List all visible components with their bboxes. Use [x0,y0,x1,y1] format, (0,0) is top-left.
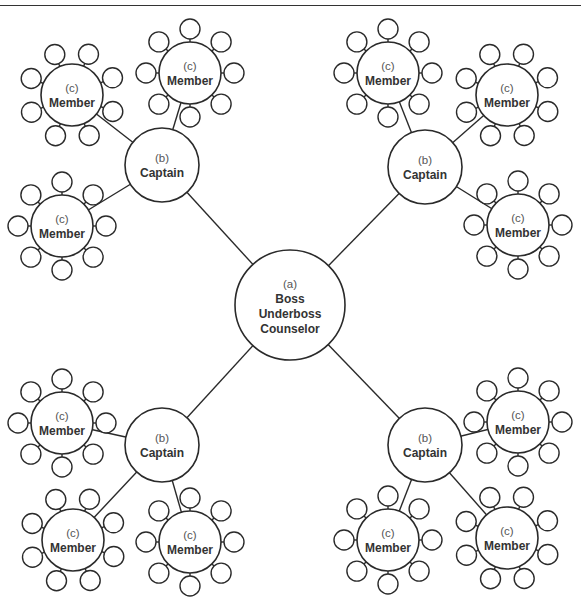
associate-circle [477,184,497,204]
member-node: (c)Member [476,507,538,569]
member-code-label: (c) [66,527,80,539]
associate-circle [538,544,558,564]
captain-role-label: Captain [140,166,184,180]
member-role-label: Member [49,96,95,110]
member-node: (c)Member [357,42,419,104]
associate-circle [149,563,169,583]
associate-circle [334,63,354,83]
associate-circle [514,569,534,589]
member-circle [476,64,538,126]
member-code-label: (c) [500,82,514,94]
associate-circle [21,382,41,402]
associate-circle [378,574,398,594]
associate-circle [104,513,124,533]
associate-circle [538,511,558,531]
associate-circle [180,19,200,39]
associate-circle [83,382,103,402]
boss-code-label: (a) [283,278,297,290]
associate-circle [347,32,367,52]
member-node: (c)Member [159,511,221,573]
associate-circle [477,381,497,401]
associate-circle [514,126,534,146]
member-node: (c)Member [487,194,549,256]
associate-circle [409,499,429,519]
captain-bottom-left: (b)Captain [125,408,199,482]
member-circle [42,509,104,571]
member-role-label: Member [167,74,213,88]
associate-circle [347,561,367,581]
associate-circle [136,532,156,552]
associate-circle [79,489,99,509]
captain-role-label: Captain [403,446,447,460]
member-code-label: (c) [183,60,197,72]
associate-circle [456,102,476,122]
captain-role-label: Captain [403,168,447,182]
captain-code-label: (b) [418,154,432,166]
associate-circle [136,63,156,83]
associate-circle [96,413,116,433]
captain-role-label: Captain [140,446,184,460]
boss-role-label: Counselor [260,322,320,336]
associate-circle [480,44,500,64]
captain-code-label: (b) [418,432,432,444]
associate-circle [47,571,67,591]
member-circle [159,511,221,573]
captain-code-label: (b) [155,432,169,444]
associate-circle [508,171,528,191]
member-node: (c)Member [357,509,419,571]
member-circle [31,195,93,257]
associate-circle [180,488,200,508]
associate-circle [52,457,72,477]
member-code-label: (c) [183,529,197,541]
member-role-label: Member [365,541,411,555]
associate-circle [538,101,558,121]
associate-circle [22,547,42,567]
member-role-label: Member [39,227,85,241]
associate-circle [409,561,429,581]
associate-circle [80,571,100,591]
associate-circle [22,514,42,534]
associate-circle [180,576,200,596]
member-node: (c)Member [159,42,221,104]
boss-role-label: Underboss [259,307,322,321]
member-circle [487,391,549,453]
associate-circle [149,501,169,521]
associate-circle [103,68,123,88]
associate-circle [539,184,559,204]
captain-circle [125,408,199,482]
associate-circle [83,185,103,205]
associate-circle [378,19,398,39]
member-code-label: (c) [65,82,79,94]
member-node: (c)Member [476,64,538,126]
associate-circle [8,413,28,433]
associate-circle [422,63,442,83]
associate-circle [52,369,72,389]
associate-circle [477,443,497,463]
associate-circle [224,63,244,83]
member-role-label: Member [495,423,541,437]
associate-circle [79,126,99,146]
associate-circle [52,172,72,192]
associate-circle [211,501,231,521]
associate-circle [347,94,367,114]
member-circle [357,509,419,571]
captain-circle [125,128,199,202]
associate-circle [513,487,533,507]
member-node: (c)Member [41,64,103,126]
member-role-label: Member [39,424,85,438]
associate-circle [45,44,65,64]
associate-circle [539,381,559,401]
associate-circle [211,32,231,52]
associate-circle [513,44,533,64]
associate-circle [149,94,169,114]
associate-circle [477,246,497,266]
member-circle [487,194,549,256]
associate-circle [104,546,124,566]
captain-top-right: (b)Captain [388,130,462,204]
member-circle [41,64,103,126]
boss-node: (a)BossUnderbossCounselor [235,250,345,360]
associate-circle [21,247,41,267]
associate-circle [211,94,231,114]
member-role-label: Member [484,539,530,553]
member-circle [159,42,221,104]
